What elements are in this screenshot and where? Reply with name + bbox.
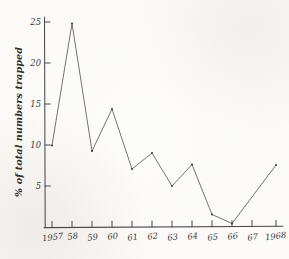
- x-tick-label: 58: [67, 230, 79, 241]
- data-point: [275, 164, 277, 166]
- x-tick-label: 65: [207, 231, 219, 242]
- y-tick-labels: 25 20 15 10 5: [29, 17, 41, 191]
- y-tick-label: 10: [30, 140, 41, 150]
- x-tick-label: 61: [127, 231, 139, 242]
- data-point-markers: [51, 23, 277, 225]
- x-tick-label: 1968: [264, 230, 287, 243]
- data-point: [231, 223, 233, 225]
- x-tick-label: 60: [107, 230, 119, 241]
- y-tick-label: 5: [36, 181, 41, 191]
- y-tick-label: 15: [30, 99, 41, 109]
- data-point: [171, 185, 173, 187]
- data-point: [111, 108, 113, 110]
- x-axis-line: [44, 226, 283, 227]
- x-tick-label: 59: [87, 231, 99, 242]
- x-tick-label: 1957: [41, 231, 64, 244]
- data-point: [71, 23, 73, 25]
- chart-page: 25 20 15 10 5 1957 58 59 60 61 62 63 64 …: [0, 0, 289, 259]
- y-tick-label: 25: [29, 17, 41, 27]
- data-point: [51, 145, 53, 147]
- data-point: [191, 164, 193, 166]
- x-tick-labels: 1957 58 59 60 61 62 63 64 65 66 67 1968: [41, 230, 287, 244]
- x-tick-label: 67: [247, 231, 259, 242]
- data-point: [211, 214, 213, 216]
- x-tick-label: 66: [227, 230, 239, 241]
- data-point: [91, 150, 93, 152]
- y-tick-label: 20: [29, 58, 41, 68]
- data-point: [131, 168, 133, 170]
- y-axis-label: % of total numbers trapped: [13, 47, 24, 197]
- data-point: [151, 152, 153, 154]
- data-series-line: [52, 24, 276, 224]
- x-tick-label: 64: [187, 230, 199, 241]
- line-chart: 25 20 15 10 5 1957 58 59 60 61 62 63 64 …: [0, 0, 289, 259]
- y-axis-line: [45, 17, 46, 228]
- x-tick-label: 62: [147, 230, 159, 241]
- x-tick-label: 63: [167, 231, 179, 242]
